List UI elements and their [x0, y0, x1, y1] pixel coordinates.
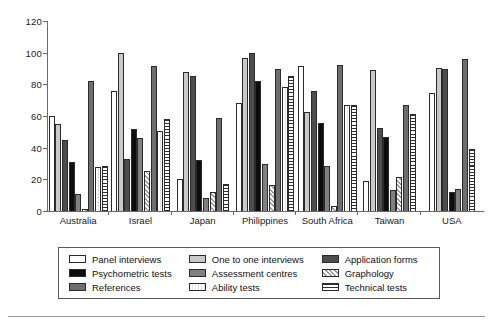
y-axis-tick-label: 120 [26, 16, 42, 27]
bar [124, 159, 130, 211]
legend-swatch [69, 283, 86, 291]
bar [351, 105, 357, 211]
bar [324, 166, 330, 211]
legend-swatch [322, 269, 339, 277]
bar [236, 103, 242, 211]
y-axis-tick-label: 100 [26, 47, 42, 58]
bar [55, 124, 61, 211]
bar [210, 192, 216, 211]
legend-swatch [69, 255, 86, 263]
bar [436, 68, 442, 211]
bar-groups: AustraliaIsraelJapanPhilippinesSouth Afr… [47, 21, 483, 211]
bar [462, 59, 468, 211]
legend-item: Technical tests [322, 282, 431, 293]
bar [242, 58, 248, 211]
bar [262, 164, 268, 211]
bar [311, 91, 317, 211]
bar [111, 91, 117, 211]
bar [396, 177, 402, 211]
bar [304, 112, 310, 211]
legend-label: Technical tests [345, 282, 407, 293]
bar [118, 53, 124, 211]
bar [403, 105, 409, 211]
bar [137, 138, 143, 211]
legend-label: Psychometric tests [92, 268, 172, 279]
bar-group: Philippines [234, 21, 296, 211]
x-axis-category-label: South Africa [296, 215, 358, 226]
bar-group: Taiwan [358, 21, 420, 211]
bar [363, 181, 369, 211]
legend-swatch [69, 269, 86, 277]
legend-label: Graphology [345, 268, 394, 279]
legend-item: One to one interviews [189, 254, 318, 265]
x-axis-category-label: Australia [47, 215, 109, 226]
bar [370, 70, 376, 211]
bar [151, 66, 157, 211]
bar [383, 137, 389, 211]
bar-group: Israel [109, 21, 171, 211]
bar [196, 160, 202, 211]
bar [377, 128, 383, 211]
x-axis-category-label: Taiwan [358, 215, 420, 226]
bar [88, 81, 94, 211]
bar [164, 119, 170, 211]
x-axis-category-label: Israel [109, 215, 171, 226]
bar [190, 76, 196, 211]
bar [62, 140, 68, 211]
bar [183, 72, 189, 211]
bar [344, 105, 350, 211]
bar [318, 123, 324, 211]
legend-swatch [322, 283, 339, 291]
legend-swatch [189, 269, 206, 277]
bar [177, 179, 183, 211]
chart-screenshot: 020406080100120 AustraliaIsraelJapanPhil… [0, 0, 493, 326]
footer-rule [8, 316, 485, 317]
y-axis-tick-label: 0 [37, 206, 42, 217]
bar [455, 189, 461, 211]
legend-item: Panel interviews [69, 254, 185, 265]
bar [49, 116, 55, 211]
legend-label: Application forms [345, 254, 418, 265]
bar [223, 184, 229, 211]
bar [390, 190, 396, 211]
bar-chart-plot-area: 020406080100120 AustraliaIsraelJapanPhil… [47, 21, 483, 211]
bar-group: Australia [47, 21, 109, 211]
bar [449, 192, 455, 211]
bar [157, 131, 163, 211]
bar [216, 118, 222, 211]
bar-group: South Africa [296, 21, 358, 211]
bar [95, 167, 101, 211]
bar-group: Japan [172, 21, 234, 211]
x-axis-category-label: Philippines [234, 215, 296, 226]
legend-label: Assessment centres [212, 268, 298, 279]
bar [288, 76, 294, 211]
legend-swatch [322, 255, 339, 263]
y-axis-tick-label: 20 [31, 174, 42, 185]
bar [337, 65, 343, 211]
bar [203, 198, 209, 211]
legend-label: One to one interviews [212, 254, 304, 265]
y-axis-line [47, 21, 48, 212]
y-axis-tick-label: 60 [31, 111, 42, 122]
legend-label: References [92, 282, 141, 293]
bar [469, 149, 475, 211]
bar [442, 69, 448, 212]
bar [269, 185, 275, 211]
legend-item: Psychometric tests [69, 268, 185, 279]
bar [102, 166, 108, 211]
bar [255, 81, 261, 211]
legend-label: Panel interviews [92, 254, 161, 265]
y-axis-tick-label: 80 [31, 79, 42, 90]
bar [144, 171, 150, 211]
bar [410, 114, 416, 211]
y-axis-tick-label: 40 [31, 142, 42, 153]
bar [298, 66, 304, 211]
bar [249, 53, 255, 211]
bar [75, 194, 81, 211]
chart-legend: Panel interviewsOne to one interviewsApp… [58, 247, 440, 299]
legend-swatch [189, 255, 206, 263]
bar [429, 93, 435, 211]
bar [275, 69, 281, 211]
legend-swatch [189, 283, 206, 291]
x-axis-line [47, 211, 484, 212]
